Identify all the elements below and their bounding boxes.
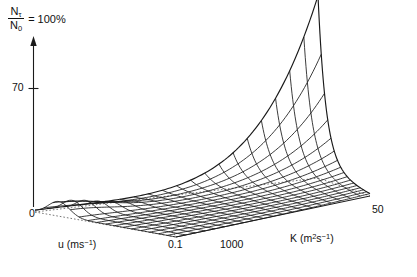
k-axis-end-tick: 50 <box>372 204 384 215</box>
surface-plot-canvas <box>0 0 417 277</box>
mesh-line-const-k <box>290 71 351 199</box>
vertical-axis-tick-70: 70 <box>12 82 24 93</box>
figure-3d-surface-plot: Nτ N0 = 100% 70 0 u (ms−1) K (m2s−1) 0.1… <box>0 0 417 277</box>
numerator-subscript: τ <box>19 10 22 19</box>
vertical-axis-max-value: = 100% <box>28 14 66 25</box>
mesh-line-const-u <box>53 93 325 202</box>
k-axis-label: K (m2s−1) <box>290 233 334 244</box>
mesh-line-const-u <box>35 0 318 210</box>
u-axis-label: u (ms−1) <box>58 239 96 250</box>
u-axis-max-tick: 0.1 <box>168 239 183 250</box>
k-axis-start-tick: 1000 <box>220 239 243 250</box>
mesh-line-const-u <box>44 54 321 208</box>
mesh-line-const-k <box>318 0 370 194</box>
u-axis-exponent: −1 <box>84 238 93 247</box>
origin-label: 0 <box>29 208 35 219</box>
fraction-numerator: Nτ <box>8 6 24 19</box>
k-axis-exponent-2: −1 <box>322 232 331 241</box>
fraction-denominator: N0 <box>8 19 24 32</box>
vertical-axis-label: Nτ N0 = 100% <box>8 6 66 32</box>
ratio-fraction: Nτ N0 <box>8 6 24 32</box>
mesh-line-const-u <box>70 138 331 210</box>
denominator-subscript: 0 <box>18 24 22 33</box>
vertical-axis <box>29 36 39 207</box>
